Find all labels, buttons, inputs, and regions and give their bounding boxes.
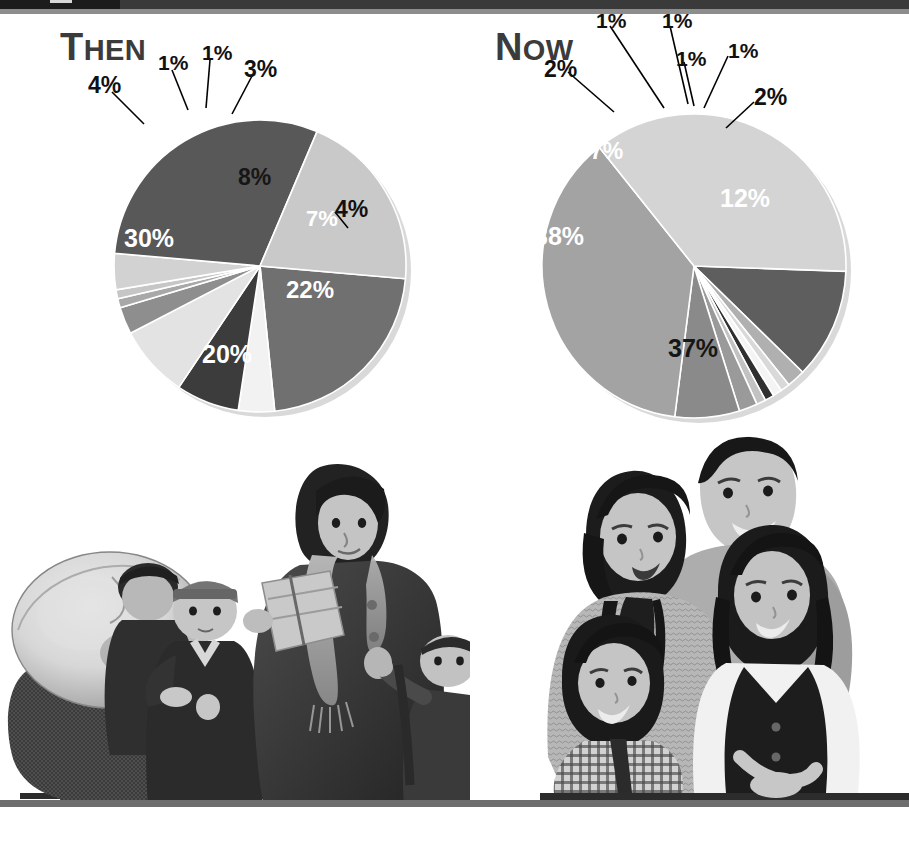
leader-line	[172, 70, 188, 110]
pie-chart-then: 22%4%7%8%3%1%1%4%30%20%	[110, 120, 410, 420]
pie-label-then-30pct-8: 30%	[124, 226, 174, 251]
pie-label-then-1pct-5: 1%	[202, 42, 232, 63]
header-tab-marker	[50, 0, 72, 3]
pie-label-then-4pct-7: 4%	[88, 74, 121, 97]
pie-label-now-1pct-4: 1%	[662, 10, 692, 31]
pie-label-then-8pct-3: 8%	[238, 166, 271, 189]
photos-region	[0, 415, 909, 807]
chart-title-then-rest: HEN	[84, 34, 146, 66]
header-bar	[0, 0, 909, 9]
pie-label-now-12pct-0: 12%	[720, 186, 770, 211]
leader-line	[704, 56, 728, 108]
leader-line	[610, 26, 664, 108]
charts-region: THEN NOW 22%4%7%8%3%1%1%4%30%20% 12%2%1%…	[0, 14, 909, 414]
pie-label-now-2pct-6: 2%	[544, 58, 577, 81]
historical-family-photo	[0, 415, 470, 807]
bottom-rule	[0, 800, 909, 807]
pie-label-then-4pct-1: 4%	[335, 198, 368, 221]
pie-label-now-2pct-1: 2%	[754, 86, 787, 109]
chart-title-then: THEN	[60, 28, 146, 66]
pie-chart-now-svg	[538, 114, 850, 426]
modern-family-photo	[540, 427, 909, 807]
pie-label-then-7pct-2: 7%	[306, 208, 338, 230]
pie-label-now-1pct-2: 1%	[728, 40, 758, 61]
pie-label-then-3pct-4: 3%	[244, 58, 277, 81]
pie-label-then-22pct-0: 22%	[286, 278, 334, 302]
pie-label-now-7pct-7: 7%	[590, 140, 623, 163]
pie-label-then-20pct-9: 20%	[202, 342, 252, 367]
pie-label-now-1pct-5: 1%	[596, 10, 626, 31]
chart-title-then-initial: T	[60, 26, 84, 68]
pie-label-now-37pct-9: 37%	[668, 336, 718, 361]
pie-label-now-38pct-8: 38%	[534, 224, 584, 249]
chart-title-now-initial: N	[495, 26, 523, 68]
pie-chart-now: 12%2%1%1%1%1%2%7%38%37%	[538, 114, 850, 426]
pie-label-now-1pct-3: 1%	[676, 48, 706, 69]
pie-label-then-1pct-6: 1%	[158, 52, 188, 73]
poster-page: THEN NOW 22%4%7%8%3%1%1%4%30%20% 12%2%1%…	[0, 0, 909, 848]
leader-line	[206, 60, 210, 108]
